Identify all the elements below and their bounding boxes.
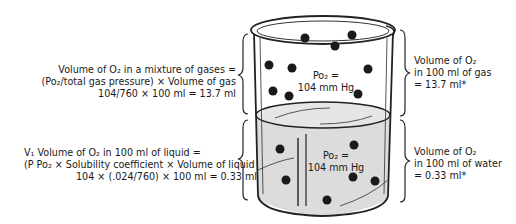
liquid-pressure-label: Po₂ = 104 mm Hg [306,150,366,174]
right-gas-result: Volume of O₂ in 100 ml of gas = 13.7 ml* [414,55,491,91]
left-liquid-line2: (P Po₂ × Solubility coefficient × Volume… [24,159,257,171]
brace-right-gas [400,30,410,116]
left-gas-line3: 104/760 × 100 ml = 13.7 ml [42,88,236,100]
right-liquid-result: Volume of O₂ in 100 ml of water = 0.33 m… [414,146,502,182]
left-gas-line1: Volume of O₂ in a mixture of gases = [42,64,236,76]
left-liquid-line3: 104 × (.024/760) × 100 ml = 0.33 ml [24,171,257,183]
gas-pressure-label: Po₂ = 104 mm Hg [296,70,356,94]
brace-right-liquid [400,120,410,202]
left-gas-line2: (Po₂/total gas pressure) × Volume of gas [42,76,236,88]
beaker-rim [251,16,395,44]
left-gas-formula: Volume of O₂ in a mixture of gases = (Po… [42,64,236,100]
left-liquid-formula: V₁ Volume of O₂ in 100 ml of liquid = (P… [24,147,257,183]
brace-left-gas [238,34,248,114]
beaker-diagram [0,0,516,224]
left-liquid-line1: V₁ Volume of O₂ in 100 ml of liquid = [24,147,257,159]
